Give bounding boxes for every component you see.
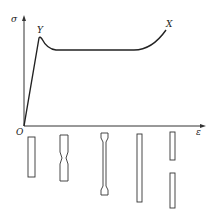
stress-strain-curve <box>24 30 166 126</box>
specimen-drawn <box>137 134 142 202</box>
specimens <box>28 132 175 208</box>
specimen-fractured-top <box>170 132 175 160</box>
specimen-necking <box>60 135 68 181</box>
specimen-fractured-bottom <box>170 173 175 208</box>
x-axis-arrow-icon <box>200 124 206 128</box>
y-axis-label: σ <box>11 14 18 24</box>
fracture-point-label: X <box>165 19 173 29</box>
yield-point-label: Y <box>37 25 44 35</box>
specimen-neck-propagated <box>101 133 108 195</box>
origin-label: O <box>16 127 24 137</box>
axes <box>22 15 206 128</box>
y-axis-arrow-icon <box>22 15 26 21</box>
specimen-original <box>28 137 35 177</box>
x-axis-label: ε <box>196 127 201 137</box>
stress-strain-diagram: σ ε O Y X <box>0 0 216 216</box>
